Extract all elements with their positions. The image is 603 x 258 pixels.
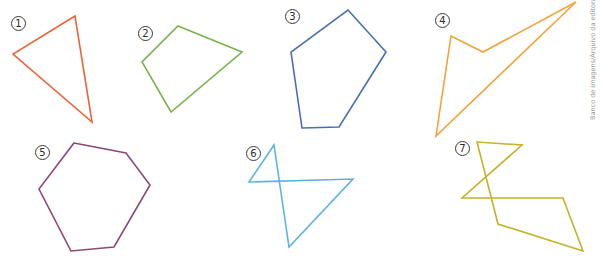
figure-1-triangle — [13, 16, 92, 122]
polygon-figures-diagram: 1 2 3 4 5 6 7 Banco de imagens/Arquivo d… — [0, 0, 603, 258]
figure-7-crossed-hexagon — [462, 142, 583, 251]
polygon-figures — [0, 0, 603, 258]
figure-4-concave-quadrilateral — [436, 2, 576, 136]
figure-label-5: 5 — [35, 145, 50, 160]
figure-label-1: 1 — [11, 16, 26, 31]
figure-label-4: 4 — [435, 13, 450, 28]
figure-label-2: 2 — [138, 26, 153, 41]
figure-label-7: 7 — [455, 141, 470, 156]
figure-3-pentagon — [291, 10, 386, 128]
figure-label-3: 3 — [285, 9, 300, 24]
image-credit: Banco de imagens/Arquivo da editora — [589, 2, 601, 120]
figure-5-hexagon — [39, 143, 150, 251]
figure-2-quadrilateral — [142, 26, 242, 112]
figure-label-6: 6 — [246, 146, 261, 161]
figure-6-crossed-quadrilateral — [249, 145, 353, 247]
